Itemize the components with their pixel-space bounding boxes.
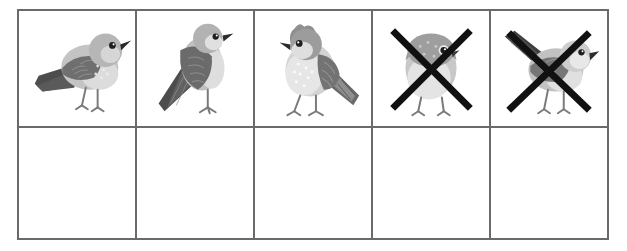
grid-cell-bottom-5[interactable] — [491, 128, 607, 238]
bird-counting-worksheet — [17, 9, 609, 240]
grid-cell-top-3[interactable] — [255, 11, 373, 126]
grid-cell-bottom-1[interactable] — [19, 128, 137, 238]
worksheet-grid — [17, 9, 609, 240]
grid-cell-top-5[interactable] — [491, 11, 607, 126]
bird-icon — [373, 11, 489, 126]
grid-cell-bottom-4[interactable] — [373, 128, 491, 238]
grid-cell-top-4[interactable] — [373, 11, 491, 126]
bird-icon — [255, 11, 371, 126]
grid-cell-top-2[interactable] — [137, 11, 255, 126]
grid-cell-bottom-3[interactable] — [255, 128, 373, 238]
bird-icon — [491, 11, 607, 126]
bird-icon — [19, 11, 135, 126]
grid-row-bottom — [19, 128, 607, 238]
grid-cell-bottom-2[interactable] — [137, 128, 255, 238]
bird-icon — [137, 11, 253, 126]
grid-cell-top-1[interactable] — [19, 11, 137, 126]
grid-row-top — [19, 11, 607, 128]
